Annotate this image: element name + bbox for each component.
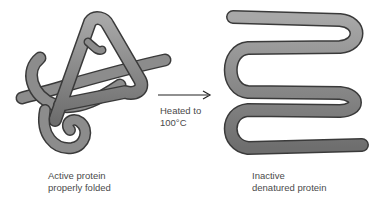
arrow-label: Heated to 100°C — [160, 105, 201, 129]
denatured-caption-line2: denatured protein — [252, 182, 326, 194]
folded-protein-caption: Active protein properly folded — [48, 170, 111, 194]
folded-caption-line2: properly folded — [48, 182, 111, 194]
folded-caption-line1: Active protein — [48, 170, 111, 182]
heating-arrow — [158, 91, 210, 99]
denatured-protein-illustration — [231, 17, 362, 148]
denatured-protein-caption: Inactive denatured protein — [252, 170, 326, 194]
arrow-label-line1: Heated to — [160, 105, 201, 117]
denatured-caption-line1: Inactive — [252, 170, 326, 182]
arrow-label-line2: 100°C — [160, 117, 201, 129]
folded-protein-illustration — [22, 18, 165, 148]
